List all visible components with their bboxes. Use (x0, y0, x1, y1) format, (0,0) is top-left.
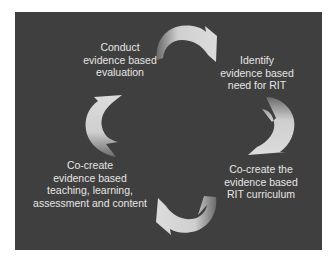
step-line: evaluation (75, 66, 165, 79)
step-line: Identify (212, 54, 302, 67)
step-line: assessment and content (30, 197, 150, 210)
step-teaching-label: Co-create evidence based teaching, learn… (30, 159, 150, 209)
arrow-teaching-to-evaluate-icon (86, 95, 122, 157)
arrow-identify-to-curriculum-icon (248, 97, 294, 155)
step-line: evidence based (212, 67, 302, 80)
step-line: Conduct (75, 41, 165, 54)
step-curriculum-label: Co-create the evidence based RIT curricu… (216, 163, 306, 201)
step-line: RIT curriculum (216, 188, 306, 201)
arrow-curriculum-to-teaching-icon (156, 196, 216, 235)
step-evaluate-label: Conduct evidence based evaluation (75, 41, 165, 79)
step-identify-label: Identify evidence based need for RIT (212, 54, 302, 92)
cycle-arrows (0, 0, 336, 264)
step-line: Co-create the (216, 163, 306, 176)
step-line: teaching, learning, (30, 184, 150, 197)
step-line: evidence based (216, 176, 306, 189)
step-line: evidence based (30, 172, 150, 185)
step-line: evidence based (75, 54, 165, 67)
step-line: need for RIT (212, 79, 302, 92)
arrow-evaluate-to-identify-icon (157, 26, 217, 62)
step-line: Co-create (30, 159, 150, 172)
